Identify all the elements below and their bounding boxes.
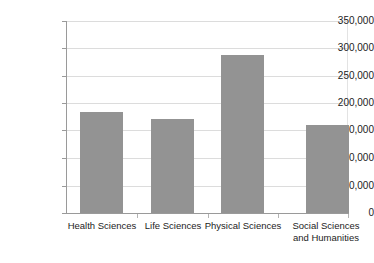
- gridline-300000: [67, 48, 348, 49]
- x-tick-mark-1: [137, 214, 138, 218]
- y-tick-mark-0: [62, 213, 66, 214]
- x-axis-label-physical-sciences: Physical Sciences: [204, 220, 282, 232]
- bar-physical-sciences: [221, 55, 264, 213]
- x-tick-mark-2: [208, 214, 209, 218]
- x-axis-label-life-sciences: Life Sciences: [136, 220, 210, 232]
- gridline-350000: [67, 21, 348, 22]
- y-tick-label-250000: 250,000: [316, 71, 374, 81]
- y-tick-mark-300000: [62, 48, 66, 49]
- y-tick-label-300000: 300,000: [316, 43, 374, 53]
- gridline-250000: [67, 76, 348, 77]
- y-tick-mark-350000: [62, 21, 66, 22]
- bar-health-sciences: [80, 112, 123, 213]
- y-axis-line: [66, 21, 67, 214]
- y-tick-mark-100000: [62, 158, 66, 159]
- x-axis-label-social-sciences-and-humanities: Social Sciences and Humanities: [285, 220, 367, 243]
- bar-social-sciences-and-humanities: [306, 125, 349, 213]
- bar-chart: 350,000 300,000 250,000 200,000 150,000 …: [0, 0, 374, 263]
- y-tick-mark-150000: [62, 130, 66, 131]
- y-tick-mark-200000: [62, 103, 66, 104]
- x-axis-label-health-sciences: Health Sciences: [62, 220, 142, 232]
- y-tick-label-200000: 200,000: [316, 98, 374, 108]
- y-tick-mark-250000: [62, 76, 66, 77]
- gridline-200000: [67, 103, 348, 104]
- y-tick-mark-50000: [62, 186, 66, 187]
- x-tick-mark-4: [348, 214, 349, 218]
- x-tick-mark-3: [278, 214, 279, 218]
- y-tick-label-350000: 350,000: [316, 16, 374, 26]
- bar-life-sciences: [151, 119, 194, 213]
